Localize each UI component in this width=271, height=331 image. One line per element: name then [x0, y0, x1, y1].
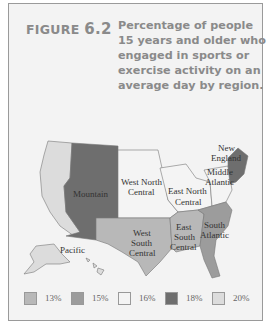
- label-esc-3: Central: [170, 242, 197, 252]
- legend-label: 16%: [139, 293, 156, 303]
- legend-item-18: 18%: [165, 290, 203, 306]
- label-ne-2: England: [211, 153, 241, 163]
- label-mountain: Mountain: [73, 189, 108, 199]
- us-region-map: Mountain West North Central East North C…: [0, 0, 271, 331]
- label-wnc-1: West North: [121, 177, 163, 187]
- label-enc-2: Central: [175, 197, 202, 207]
- label-wnc-2: Central: [128, 187, 155, 197]
- label-pacific: Pacific: [60, 245, 85, 255]
- legend-swatch: [71, 292, 84, 305]
- label-esc-1: East: [176, 222, 192, 232]
- legend-label: 20%: [233, 293, 250, 303]
- label-ma-1: Middle: [207, 167, 233, 177]
- label-ma-2: Atlantic: [205, 177, 234, 187]
- legend-item-20: 20%: [212, 290, 250, 306]
- label-wsc-1: West: [133, 228, 151, 238]
- legend: 13% 15% 16% 18% 20%: [24, 290, 260, 306]
- legend-label: 15%: [92, 293, 109, 303]
- label-wsc-2: South: [131, 238, 153, 248]
- label-sa-2: Atlantic: [200, 230, 229, 240]
- legend-swatch: [212, 292, 225, 305]
- legend-swatch: [165, 292, 178, 305]
- label-esc-2: South: [174, 232, 196, 242]
- legend-item-16: 16%: [118, 290, 156, 306]
- legend-item-13: 13%: [24, 290, 62, 306]
- legend-item-15: 15%: [71, 290, 109, 306]
- legend-label: 13%: [45, 293, 62, 303]
- legend-swatch: [24, 292, 37, 305]
- region-hawaii: [86, 258, 104, 275]
- label-ne-1: New: [218, 143, 235, 153]
- legend-label: 18%: [186, 293, 203, 303]
- label-wsc-3: Central: [129, 248, 156, 258]
- label-enc-1: East North: [168, 186, 207, 196]
- label-sa-1: South: [204, 220, 226, 230]
- legend-swatch: [118, 292, 131, 305]
- region-south-atlantic: [198, 202, 232, 278]
